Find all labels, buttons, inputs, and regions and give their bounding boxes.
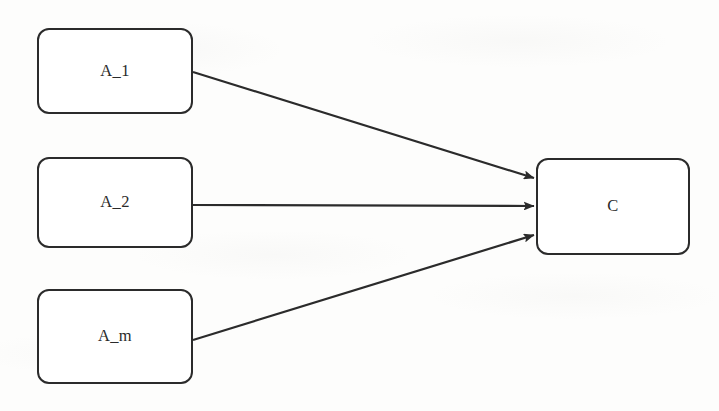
node-c-label: C [607, 198, 618, 215]
node-a1[interactable]: A_1 [37, 28, 193, 114]
node-a2-label: A_2 [100, 194, 130, 211]
node-c[interactable]: C [536, 158, 690, 255]
edge-a1-c [193, 72, 534, 178]
node-am-label: A_m [98, 328, 132, 345]
edge-am-c [193, 235, 534, 340]
edge-a2-c [193, 205, 534, 206]
node-a1-label: A_1 [100, 63, 130, 80]
diagram-canvas: A_1 A_2 A_m C [0, 0, 719, 411]
node-am[interactable]: A_m [37, 289, 193, 384]
node-a2[interactable]: A_2 [37, 157, 193, 248]
